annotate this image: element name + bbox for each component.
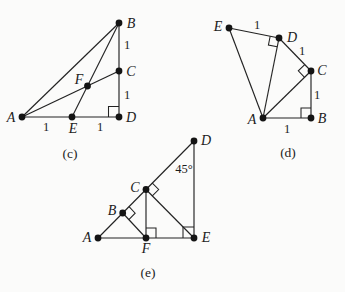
point-C-dot [308, 68, 315, 75]
point-D-dot [116, 114, 123, 121]
point-label-F: F [141, 241, 151, 256]
point-label-D: D [286, 30, 297, 45]
textbook-figure-page: ABCDEF1111(c)EDCAB1111(d)ABCDEF45°(e) [0, 0, 345, 292]
point-B-dot [119, 210, 126, 217]
point-C-dot [143, 186, 150, 193]
side-length-label: 1 [124, 38, 130, 52]
point-label-F: F [74, 72, 84, 87]
point-A-dot [95, 235, 102, 242]
point-label-A: A [82, 230, 92, 245]
geometry-diagrams: ABCDEF1111(c)EDCAB1111(d)ABCDEF45°(e) [0, 0, 345, 292]
angle-label: 45° [175, 162, 193, 176]
point-label-B: B [127, 16, 136, 31]
point-E-dot [191, 235, 198, 242]
point-label-A: A [247, 112, 257, 127]
point-D-dot [276, 35, 283, 42]
point-label-B: B [318, 111, 327, 126]
edge-C-E [146, 190, 194, 239]
point-F-dot [84, 83, 91, 90]
point-D-dot [191, 138, 198, 145]
side-length-label: 1 [97, 120, 103, 134]
right-angle-mark-C [152, 183, 158, 196]
side-length-label: 1 [314, 88, 320, 102]
point-label-C: C [126, 64, 136, 79]
edge-E-A [229, 28, 263, 118]
point-B-dot [308, 115, 315, 122]
point-label-C: C [317, 63, 327, 78]
side-length-label: 1 [124, 88, 130, 102]
edge-B-E [72, 23, 119, 117]
point-A-dot [19, 114, 26, 121]
point-label-A: A [6, 110, 16, 125]
point-label-D: D [125, 110, 136, 125]
edge-A-C [22, 71, 119, 117]
figure-c: ABCDEF1111(c) [6, 16, 137, 161]
point-label-E: E [213, 19, 223, 34]
edge-A-B [22, 23, 119, 117]
point-label-D: D [200, 133, 211, 148]
edge-D-A [263, 38, 279, 118]
right-angle-mark-B [129, 207, 135, 220]
point-B-dot [116, 20, 123, 27]
point-E-dot [226, 25, 233, 32]
point-A-dot [260, 115, 267, 122]
point-E-dot [69, 114, 76, 121]
figure-caption-c: (c) [63, 146, 78, 161]
figure-caption-e: (e) [141, 265, 156, 280]
edge-B-F [123, 213, 146, 238]
side-length-label: 1 [254, 18, 260, 32]
side-length-label: 1 [43, 120, 49, 134]
point-label-E: E [201, 230, 211, 245]
figure-caption-d: (d) [280, 145, 296, 160]
point-label-B: B [108, 203, 117, 218]
edge-C-A [263, 71, 311, 118]
point-label-C: C [130, 180, 140, 195]
side-length-label: 1 [284, 122, 290, 136]
point-label-E: E [68, 121, 78, 136]
right-angle-mark-C [298, 65, 304, 78]
figure-d: EDCAB1111(d) [213, 18, 328, 160]
point-C-dot [116, 68, 123, 75]
figure-e: ABCDEF45°(e) [82, 133, 211, 280]
side-length-label: 1 [299, 44, 305, 58]
